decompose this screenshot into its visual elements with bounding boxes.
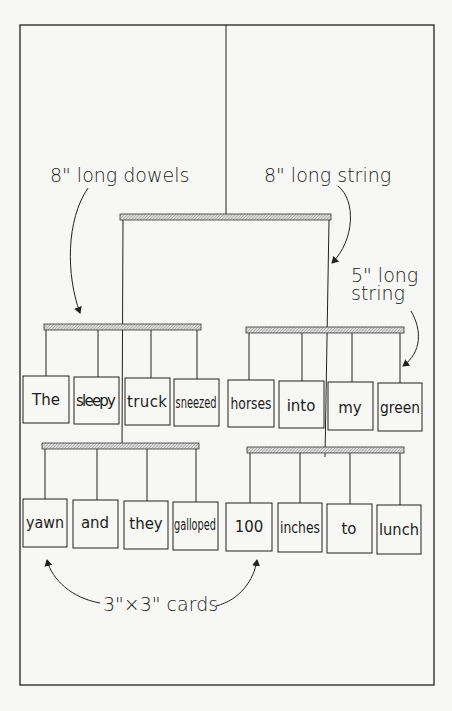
label-long-string: 8" long string <box>264 164 391 186</box>
diagram-canvas: The sleepy truck sneezed horses into my … <box>0 0 452 711</box>
card-word: sneezed <box>176 394 217 412</box>
card-my: my <box>328 382 373 430</box>
card-word: they <box>129 515 163 533</box>
dowel-upper-left <box>44 324 201 330</box>
card-word: 100 <box>235 518 264 536</box>
arrow-cards-left <box>47 560 100 603</box>
card-word: horses <box>231 395 272 413</box>
card-word: truck <box>127 393 167 411</box>
frame-border <box>20 25 434 685</box>
card-and: and <box>73 500 118 548</box>
card-they: they <box>124 501 168 549</box>
card-to: to <box>327 504 372 553</box>
lower-card-row: yawn and they galloped 100 inches to lun… <box>23 499 421 554</box>
arrow-dowels <box>70 188 88 313</box>
card-the: The <box>23 376 69 423</box>
card-word: into <box>287 397 316 415</box>
card-sneezed: sneezed <box>174 379 219 426</box>
card-inches: inches <box>278 503 322 552</box>
card-word: The <box>31 391 60 409</box>
arrow-long-string <box>332 186 350 263</box>
card-lunch: lunch <box>377 505 421 554</box>
card-word: my <box>338 399 362 417</box>
card-100: 100 <box>226 503 272 551</box>
label-cards: 3"×3" cards <box>103 593 218 615</box>
upper-card-row: The sleepy truck sneezed horses into my … <box>23 376 422 431</box>
card-green: green <box>378 383 422 431</box>
dowel-lower-right <box>247 447 404 453</box>
card-word: galloped <box>174 516 216 534</box>
card-galloped: galloped <box>173 502 218 550</box>
card-sleepy: sleepy <box>74 377 119 424</box>
card-word: to <box>341 520 356 538</box>
arrow-short-string <box>403 311 418 366</box>
lower-card-strings <box>45 449 400 508</box>
arrow-cards-right <box>216 560 257 606</box>
card-into: into <box>279 381 324 428</box>
card-word: green <box>380 399 420 417</box>
card-word: and <box>81 514 109 532</box>
card-horses: horses <box>228 380 274 427</box>
dowel-lower-left <box>42 443 199 449</box>
card-word: lunch <box>379 521 419 539</box>
card-word: yawn <box>26 514 64 532</box>
card-word: sleepy <box>76 392 116 410</box>
card-truck: truck <box>125 378 170 425</box>
left-long-string <box>122 220 123 448</box>
top-dowel <box>120 214 331 220</box>
card-yawn: yawn <box>23 499 67 547</box>
mobile-diagram: The sleepy truck sneezed horses into my … <box>0 0 452 711</box>
label-short-string-2: string <box>351 282 405 304</box>
dowel-upper-right <box>246 327 404 333</box>
label-dowels: 8" long dowels <box>50 164 189 186</box>
card-word: inches <box>280 519 320 537</box>
